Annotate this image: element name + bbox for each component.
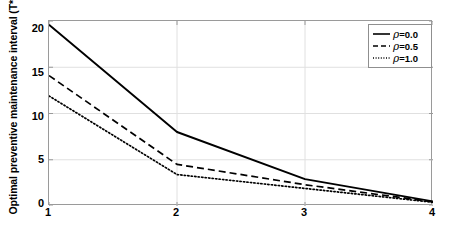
series-line-1 <box>49 76 433 202</box>
legend-label: ρ=1.0 <box>393 53 418 64</box>
x-tick-label: 3 <box>289 206 319 218</box>
x-tick-label: 1 <box>33 206 63 218</box>
legend-item-rho-05: ρ=0.5 <box>372 40 428 52</box>
legend-line-sample-dotted <box>372 53 391 63</box>
x-tick-label: 4 <box>417 206 447 218</box>
legend-value: =0.5 <box>399 41 418 52</box>
legend-item-rho-1: ρ=1.0 <box>372 52 428 64</box>
legend-item-rho-0: ρ=0.0 <box>372 28 428 40</box>
y-tick-label: 5 <box>14 153 44 165</box>
legend-line-sample-solid <box>372 29 391 39</box>
y-tick-label: 10 <box>14 110 44 122</box>
y-tick-label: 15 <box>14 66 44 78</box>
y-tick-label: 20 <box>14 22 44 34</box>
legend: ρ=0.0 ρ=0.5 ρ=1.0 <box>368 24 432 68</box>
legend-label: ρ=0.5 <box>393 41 418 52</box>
legend-value: =1.0 <box>399 53 418 64</box>
x-tick-label: 2 <box>161 206 191 218</box>
legend-line-sample-dashed <box>372 41 391 51</box>
legend-label: ρ=0.0 <box>393 29 418 40</box>
series-line-2 <box>49 96 433 202</box>
chart-figure: Optimal preventive maintenance interval … <box>0 0 450 249</box>
legend-value: =0.0 <box>399 29 418 40</box>
